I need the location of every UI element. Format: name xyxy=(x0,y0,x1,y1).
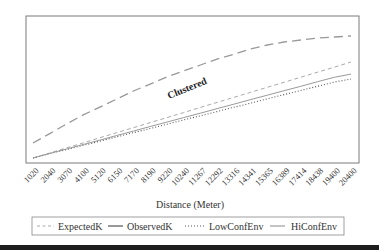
bottom-band xyxy=(0,245,379,250)
x-tick-label: 5120 xyxy=(88,166,107,185)
x-tick-label: 2040 xyxy=(38,166,57,185)
x-axis-ticks: 1020204030704100512061507170819092201024… xyxy=(22,165,359,188)
x-tick-label: 11267 xyxy=(186,166,208,188)
x-tick-label: 12292 xyxy=(203,166,225,188)
x-tick-label: 10240 xyxy=(169,166,191,188)
legend-label-expectedk: ExpectedK xyxy=(58,221,103,232)
x-tick-label: 15365 xyxy=(253,166,275,188)
legend-label-lowconfenv: LowConfEnv xyxy=(209,221,263,232)
x-tick-label: 18438 xyxy=(303,166,325,188)
legend-label-observedk: ObservedK xyxy=(127,221,173,232)
x-axis-label: Distance (Meter) xyxy=(156,199,224,211)
x-tick-label: 6150 xyxy=(105,166,124,185)
x-tick-label: 14341 xyxy=(236,166,258,188)
legend-label-hiconfenv: HiConfEnv xyxy=(291,221,337,232)
k-function-chart: Clustered 102020403070410051206150717081… xyxy=(0,0,379,250)
x-tick-label: 13316 xyxy=(219,166,241,188)
x-tick-label: 3070 xyxy=(55,166,74,185)
x-tick-label: 16389 xyxy=(270,166,292,188)
x-tick-label: 19400 xyxy=(320,166,342,188)
x-tick-label: 7170 xyxy=(122,166,141,185)
x-tick-label: 4100 xyxy=(72,166,91,185)
x-tick-label: 8190 xyxy=(139,166,158,185)
x-tick-label: 1020 xyxy=(22,166,41,185)
x-tick-label: 20400 xyxy=(337,166,359,188)
legend: ExpectedK ObservedK LowConfEnv HiConfEnv xyxy=(32,217,344,235)
